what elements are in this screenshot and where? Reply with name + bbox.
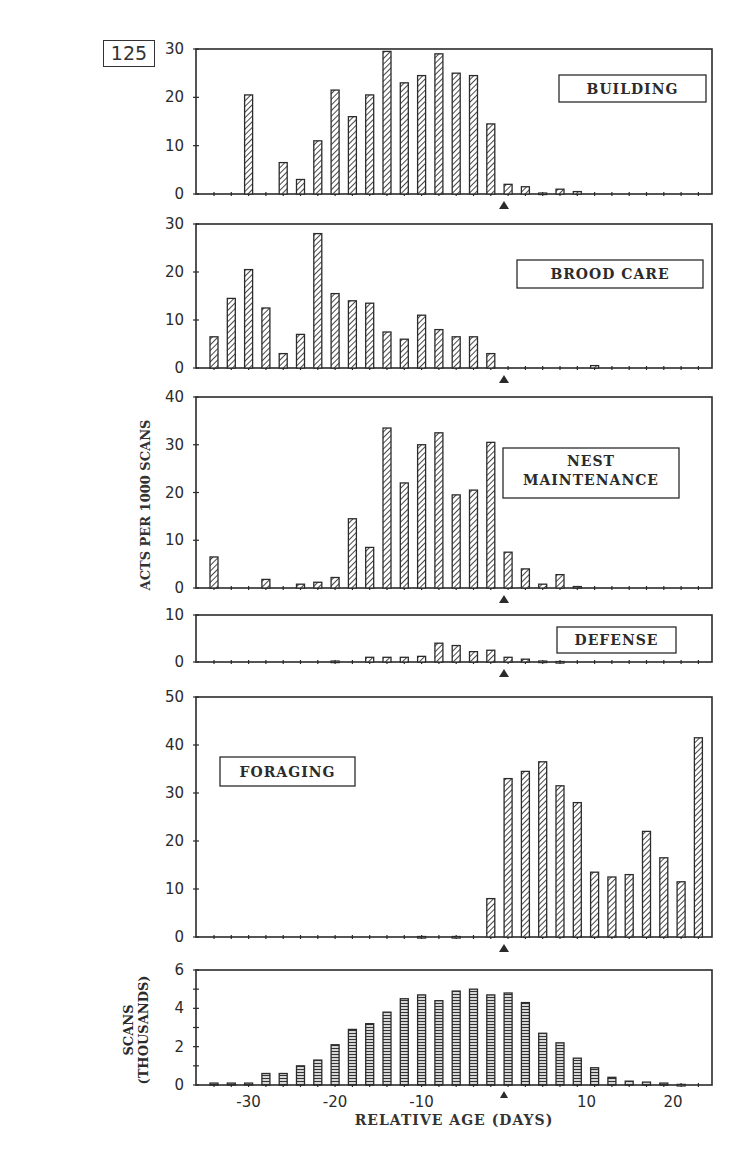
bar [521,187,529,194]
y-tick-label: 30 [165,215,184,233]
day-zero-marker-icon [499,375,509,383]
bar [556,1043,564,1085]
y-tick-label: 10 [165,531,184,549]
bar [279,163,287,194]
bar [539,193,547,195]
bar [435,643,443,662]
y-tick-label: 0 [174,928,184,946]
legend-label: DEFENSE [575,632,659,648]
legend-label: BUILDING [587,81,679,97]
bar [297,1066,305,1085]
bar [435,1001,443,1085]
y-tick-label: 10 [165,311,184,329]
bar [608,1077,616,1085]
bar [331,90,339,194]
bar [470,989,478,1085]
day-zero-marker-icon [499,201,509,209]
y-tick-label: 0 [174,185,184,203]
y-tick-label: 0 [174,359,184,377]
y-tick-label: 20 [165,88,184,106]
bar [383,428,391,588]
panel-brood-care: 0102030BROOD CARE [165,215,712,383]
bar [487,442,495,588]
bar [418,937,426,939]
bar [435,330,443,368]
bar [227,298,235,368]
bar [279,1074,287,1086]
bar [504,779,512,937]
y-axis-title: ACTS PER 1000 SCANS [138,420,153,592]
bar [210,1083,218,1085]
bar [314,234,322,368]
bar [331,1045,339,1085]
bar [504,657,512,662]
bar [400,999,408,1085]
bar [366,547,374,588]
y-tick-label: 30 [165,40,184,58]
behavior-histogram-stack: 0102030BUILDING0102030BROOD CARE01020304… [0,0,753,1175]
bar [331,577,339,588]
bar [625,875,633,937]
bar [262,1074,270,1086]
bar [452,495,460,588]
bar [366,303,374,368]
panel-nest-maintenance: 010203040NESTMAINTENANCE [165,388,712,603]
bar [521,1003,529,1085]
bar [418,656,426,662]
bar [660,1083,668,1085]
y-tick-label: 20 [165,263,184,281]
bar [591,872,599,937]
bar [245,1083,253,1085]
legend-label: FORAGING [240,764,336,780]
x-tick-label: -30 [236,1093,261,1111]
bar [400,483,408,588]
bar [435,433,443,588]
bar [539,661,547,663]
bar [521,569,529,588]
bar [573,192,581,194]
bar [556,189,564,194]
bar [660,858,668,937]
bar [487,354,495,368]
bar [452,646,460,662]
bar [418,995,426,1085]
y-tick-label: 10 [165,606,184,624]
y-tick-label: 10 [165,880,184,898]
bar [348,1029,356,1085]
bar [504,184,512,194]
bar [262,308,270,368]
bar [418,445,426,588]
day-zero-marker-icon [500,1091,508,1098]
y-tick-label: 20 [165,832,184,850]
bar [452,73,460,194]
bar [470,337,478,368]
bar [366,657,374,662]
bar [694,738,702,937]
bar [210,337,218,368]
bar [383,332,391,368]
y-tick-label: 0 [174,653,184,671]
bar [400,339,408,368]
bar [348,117,356,194]
bar [470,76,478,194]
panel-scans: 0246 [174,961,712,1098]
bar [400,657,408,662]
y-tick-label: 20 [165,484,184,502]
scans-axis-title: (THOUSANDS) [136,976,151,1085]
bar [245,95,253,194]
y-tick-label: 40 [165,388,184,406]
bar [470,652,478,662]
bar [348,301,356,368]
panel-building: 0102030BUILDING [165,40,712,209]
y-tick-label: 40 [165,736,184,754]
panel-foraging: 01020304050FORAGING [165,688,712,952]
bar [383,657,391,662]
day-zero-marker-icon [499,669,509,677]
bar [210,557,218,588]
bar [452,337,460,368]
bar [331,294,339,368]
y-tick-label: 6 [174,961,184,979]
bar [400,83,408,194]
bar [348,519,356,588]
bar [504,552,512,588]
